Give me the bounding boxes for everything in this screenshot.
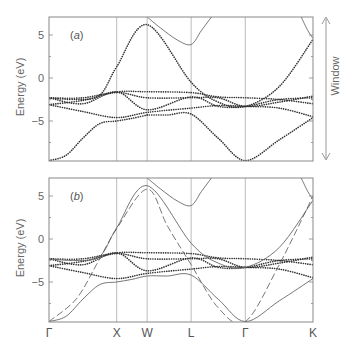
plot-frame [49,178,313,322]
band-structure-chart: 50−5Energy (eV)(a) 50−5Energy (eV)(b) ΓX… [0,0,357,353]
y-tick-label: −5 [31,276,44,288]
dotted-band [49,115,147,161]
dashed-band [49,189,313,324]
panel-label: (b) [70,190,83,202]
dotted-band [49,105,313,118]
panel-b: 50−5Energy (eV)(b) [14,178,313,324]
window-label: Window [329,56,341,95]
k-point-label: Γ [242,326,249,340]
k-point-label: X [113,326,121,340]
bands [49,178,313,324]
window-indicator: Window [322,17,341,160]
dotted-band [49,92,313,110]
solid-band [147,178,211,206]
k-point-label: Γ [46,326,53,340]
k-point-label: W [141,326,153,340]
y-tick-label: 0 [38,233,44,245]
y-tick-label: −5 [31,115,44,127]
bands [49,17,313,161]
solid-band [147,17,211,45]
solid-band [49,186,313,269]
y-tick-label: 5 [38,190,44,202]
dotted-band [49,253,313,271]
panel-a: 50−5Energy (eV)(a) [14,17,313,161]
solid-band [49,274,313,322]
dotted-band [147,113,313,161]
y-tick-label: 5 [38,29,44,41]
panel-label: (a) [70,29,83,41]
y-axis-title: Energy (eV) [14,219,26,278]
y-axis-title: Energy (eV) [14,58,26,117]
y-tick-label: 0 [38,72,44,84]
k-point-label: L [188,326,195,340]
dotted-band [49,25,313,108]
k-point-labels: ΓXWLΓK [46,326,317,340]
plot-frame [49,17,313,161]
k-point-label: K [309,326,317,340]
